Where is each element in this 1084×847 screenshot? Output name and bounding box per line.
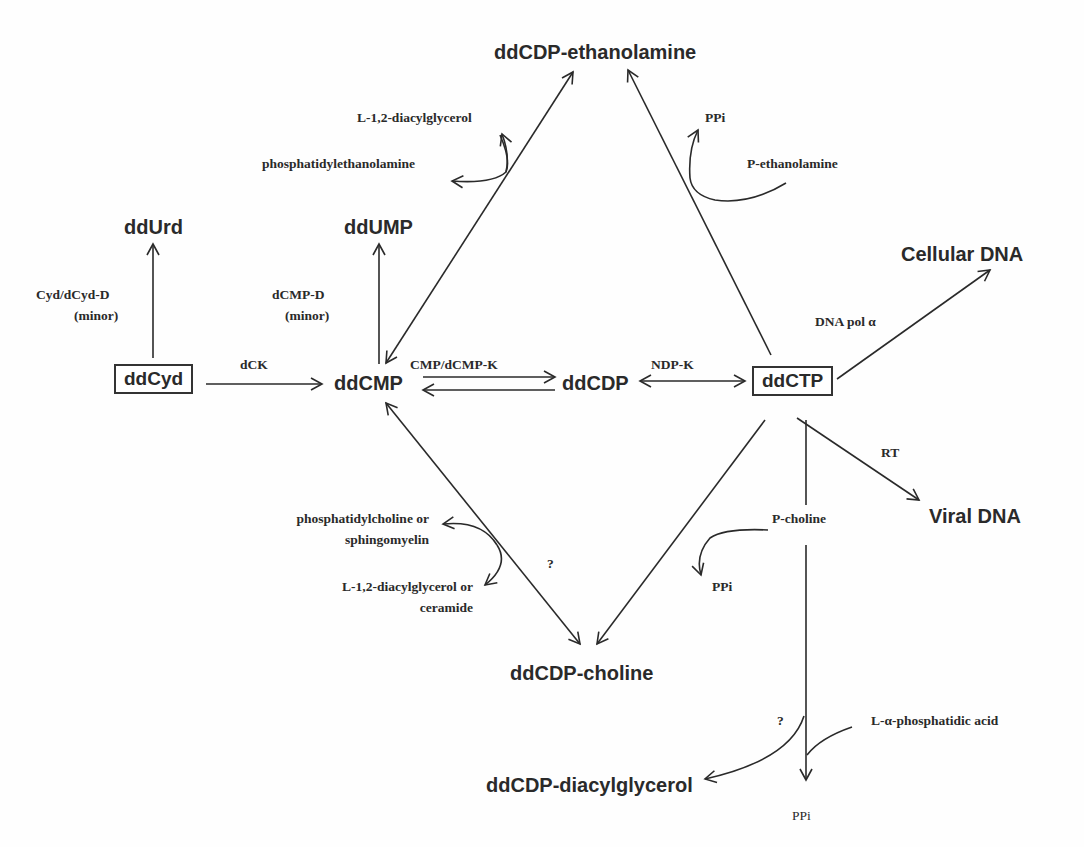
label-cyd-dcyd-d: Cyd/dCyd-D xyxy=(36,286,110,303)
label-minor-2: (minor) xyxy=(285,307,329,324)
arrow-ddctp-viral-dna xyxy=(797,418,919,500)
label-minor-1: (minor) xyxy=(74,307,118,324)
pathway-diagram: ddCDP-ethanolamine ddUrd ddUMP ddCyd ddC… xyxy=(0,0,1084,847)
node-ddctp: ddCTP xyxy=(752,366,833,396)
label-dna-pol-alpha: DNA pol α xyxy=(815,313,876,330)
label-ceramide: ceramide xyxy=(280,599,473,616)
arc-dag-pe xyxy=(452,135,508,182)
arrow-ddctp-ethanolamine xyxy=(628,70,771,355)
label-phosphatidylcholine: phosphatidylcholine or xyxy=(253,510,429,527)
arc-phosphatidic-acid xyxy=(807,727,852,755)
node-ddcdp-choline: ddCDP-choline xyxy=(510,662,653,685)
label-l12-dag-or: L-1,2-diacylglycerol or xyxy=(280,578,473,595)
arc-pc-dag xyxy=(443,523,497,545)
label-l12-diacylglycerol: L-1,2-diacylglycerol xyxy=(357,109,472,126)
label-question-2: ? xyxy=(777,712,784,729)
node-ddump: ddUMP xyxy=(344,216,413,239)
label-p-ethanolamine: P-ethanolamine xyxy=(747,155,838,172)
arc-ddcdp-diacylglycerol xyxy=(705,716,804,779)
label-ppi-bottom: PPi xyxy=(792,807,811,824)
label-ppi-top: PPi xyxy=(705,109,725,126)
node-ddcdp: ddCDP xyxy=(562,372,629,395)
label-sphingomyelin: sphingomyelin xyxy=(253,531,429,548)
node-ddcmp: ddCMP xyxy=(334,372,403,395)
label-phosphatidylethanolamine: phosphatidylethanolamine xyxy=(262,155,415,172)
label-l-alpha-phosphatidic-acid: L-α-phosphatidic acid xyxy=(871,712,998,729)
node-cellular-dna: Cellular DNA xyxy=(901,243,1023,266)
node-viral-dna: Viral DNA xyxy=(929,505,1021,528)
label-ndp-k: NDP-K xyxy=(651,356,694,373)
arc-pcholine-ppi xyxy=(699,530,768,575)
label-p-choline: P-choline xyxy=(772,510,826,527)
label-cmp-dcmp-k: CMP/dCMP-K xyxy=(410,356,498,373)
label-dcmp-d: dCMP-D xyxy=(272,286,325,303)
arrow-ddctp-choline xyxy=(597,420,765,644)
node-ddcdp-ethanolamine: ddCDP-ethanolamine xyxy=(494,41,696,64)
node-ddcyd: ddCyd xyxy=(114,364,193,394)
label-dck: dCK xyxy=(240,356,268,373)
node-ddurd: ddUrd xyxy=(124,216,183,239)
label-ppi-mid: PPi xyxy=(712,578,732,595)
label-question-1: ? xyxy=(547,555,554,572)
node-ddcdp-diacylglycerol: ddCDP-diacylglycerol xyxy=(486,774,693,797)
label-rt: RT xyxy=(881,444,899,461)
